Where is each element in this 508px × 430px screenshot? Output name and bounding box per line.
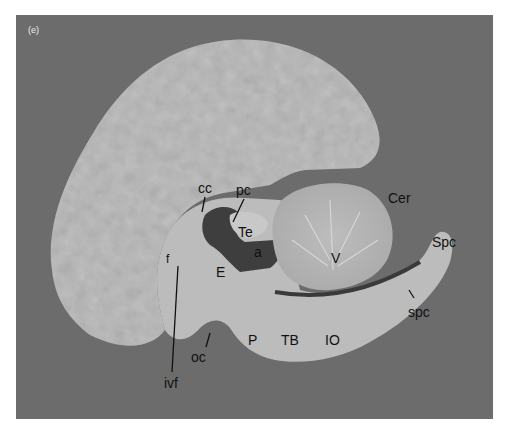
specimen-photo: (e): [16, 15, 493, 419]
label-spinal-cord-lower: spc: [408, 305, 430, 319]
label-fornix: f: [166, 252, 169, 266]
label-corpus-callosum: cc: [198, 181, 212, 195]
label-aqueduct: a: [254, 245, 262, 259]
brain-section-illustration: [16, 15, 493, 419]
label-e: E: [216, 265, 225, 279]
label-interventricular-foramen: ivf: [164, 376, 178, 390]
label-inferior-olive: IO: [325, 333, 340, 347]
label-optic-chiasm: oc: [191, 350, 206, 364]
label-v: V: [331, 251, 340, 265]
cerebellum: [272, 183, 392, 290]
label-posterior-commissure: pc: [236, 183, 251, 197]
label-spinal-cord-upper: Spc: [432, 235, 456, 249]
label-pons: P: [248, 333, 257, 347]
label-trapezoid-body: TB: [281, 333, 299, 347]
label-tectum: Te: [238, 225, 253, 239]
label-cerebellum: Cer: [388, 191, 411, 205]
panel-label: (e): [28, 25, 39, 35]
